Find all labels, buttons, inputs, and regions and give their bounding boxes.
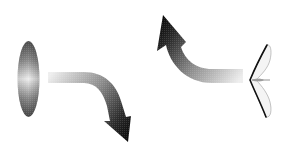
arrow-down-right-texture (48, 72, 131, 142)
disc-face-on (18, 41, 40, 117)
diagram-canvas (0, 0, 284, 153)
arrow-up-left-texture (157, 15, 243, 83)
diagram-svg (0, 0, 284, 153)
disc-face-on-texture (18, 41, 40, 117)
arrow-down-right-icon (48, 72, 131, 142)
arrow-up-left-icon (157, 15, 243, 83)
disc-edge-on (250, 45, 271, 117)
